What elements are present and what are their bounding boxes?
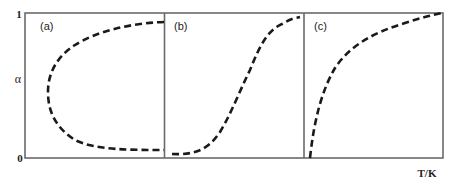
y-tick-1: 1 xyxy=(16,8,22,20)
panel-label-c: (c) xyxy=(314,20,327,32)
panel-label-b: (b) xyxy=(174,20,187,32)
curve-a xyxy=(48,22,164,150)
curve-b xyxy=(172,17,300,154)
x-axis-label: T/K xyxy=(418,167,437,179)
plot-frame xyxy=(25,13,443,158)
chart-figure: 1 0 α T/K (a) (b) (c) xyxy=(0,0,453,185)
curve-c xyxy=(310,13,442,158)
y-axis-label: α xyxy=(15,72,22,86)
y-tick-0: 0 xyxy=(17,152,23,164)
panel-label-a: (a) xyxy=(40,20,53,32)
